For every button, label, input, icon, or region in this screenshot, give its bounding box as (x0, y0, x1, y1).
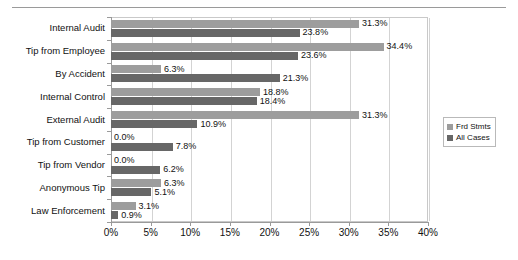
bar-all-cases (111, 211, 118, 219)
category-label: Tip from Employee (2, 46, 105, 56)
x-axis-tick-label: 0% (91, 227, 131, 238)
x-axis-tick-mark (230, 222, 231, 226)
bar-all-cases (111, 166, 160, 174)
x-axis-tick-mark (111, 222, 112, 226)
x-axis-tick-label: 40% (408, 227, 448, 238)
bar-frd-stmts (111, 88, 260, 96)
y-axis-tick (107, 154, 111, 155)
chart-legend: Frd Stmts All Cases (443, 117, 496, 147)
category-axis-labels: Internal AuditTip from EmployeeBy Accide… (0, 0, 105, 260)
bar-all-cases (111, 52, 298, 60)
bar-frd-stmts (111, 202, 136, 210)
bar-all-cases (111, 29, 300, 37)
x-axis-tick-mark (388, 222, 389, 226)
bar-value-label: 6.3% (164, 65, 185, 74)
bar-all-cases (111, 74, 280, 82)
bar-value-label: 23.8% (303, 28, 329, 37)
bar-value-label: 31.3% (362, 111, 388, 120)
bar-all-cases (111, 97, 257, 105)
category-label: Tip from Vendor (2, 160, 105, 170)
bar-value-label: 7.8% (176, 142, 197, 151)
x-axis-tick-label: 35% (368, 227, 408, 238)
category-label: Internal Control (2, 92, 105, 102)
y-axis-tick (107, 176, 111, 177)
x-axis-tick-mark (428, 222, 429, 226)
bar-value-label: 21.3% (283, 74, 309, 83)
bar-value-label: 34.4% (387, 42, 413, 51)
category-label: Tip from Customer (2, 137, 105, 147)
x-axis-tick-mark (151, 222, 152, 226)
bar-value-label: 0.0% (114, 156, 135, 165)
x-axis-tick-label: 5% (131, 227, 171, 238)
bar-frd-stmts (111, 65, 161, 73)
bar-all-cases (111, 120, 197, 128)
x-axis-tick-mark (190, 222, 191, 226)
bar-all-cases (111, 143, 173, 151)
x-axis-tick-label: 15% (210, 227, 250, 238)
bar-frd-stmts (111, 111, 359, 119)
bar-value-label: 5.1% (154, 188, 175, 197)
bar-value-label: 31.3% (362, 19, 388, 28)
bar-value-label: 6.2% (163, 165, 184, 174)
x-axis-tick-mark (349, 222, 350, 226)
bar-value-label: 23.6% (301, 51, 327, 60)
x-axis-tick-label: 20% (250, 227, 290, 238)
y-axis-tick (107, 131, 111, 132)
category-label: External Audit (2, 115, 105, 125)
category-label: By Accident (2, 69, 105, 79)
y-axis-tick (107, 17, 111, 18)
gridline (429, 18, 430, 221)
x-axis-tick-mark (270, 222, 271, 226)
x-axis-tick-mark (309, 222, 310, 226)
legend-label-frd-stmts: Frd Stmts (456, 123, 491, 131)
x-axis-tick-label: 30% (329, 227, 369, 238)
category-label: Internal Audit (2, 23, 105, 33)
y-axis-tick (107, 199, 111, 200)
bar-value-label: 10.9% (200, 120, 226, 129)
y-axis-tick (107, 85, 111, 86)
x-axis-tick-label: 25% (289, 227, 329, 238)
legend-swatch-icon-frd-stmts (447, 124, 453, 130)
bar-value-label: 0.0% (114, 133, 135, 142)
bar-value-label: 0.9% (121, 211, 142, 220)
y-axis-tick (107, 40, 111, 41)
chart-container: Internal AuditTip from EmployeeBy Accide… (0, 0, 518, 260)
y-axis-tick (107, 63, 111, 64)
legend-item-all-cases: All Cases (447, 132, 491, 143)
legend-item-frd-stmts: Frd Stmts (447, 121, 491, 132)
bar-value-label: 18.4% (260, 97, 286, 106)
x-axis-tick-label: 10% (170, 227, 210, 238)
bar-all-cases (111, 188, 151, 196)
y-axis-tick (107, 108, 111, 109)
legend-label-all-cases: All Cases (456, 134, 490, 142)
category-label: Law Enforcement (2, 206, 105, 216)
bar-frd-stmts (111, 43, 384, 51)
category-label: Anonymous Tip (2, 183, 105, 193)
legend-swatch-icon-all-cases (447, 135, 453, 141)
